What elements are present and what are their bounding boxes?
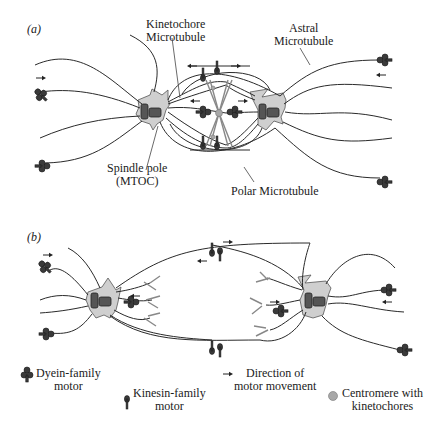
legend-dynein-label: Dyein-family motor — [36, 367, 101, 393]
right-spindle-pole-b — [298, 275, 331, 318]
direction-arrow-icon — [223, 372, 233, 376]
spindle-pole-label: Spindle pole (MTOC) — [107, 162, 167, 188]
direction-arrow-icon — [231, 64, 241, 68]
kinesin-motor-icon — [217, 248, 222, 261]
panel-b-label: (b) — [27, 230, 41, 245]
legend-direction-label: Direction of motor movement — [234, 367, 316, 393]
direction-arrow-icon — [43, 253, 53, 257]
panel-b-diagram — [36, 240, 412, 357]
dynein-motor-icon — [273, 305, 288, 317]
dynein-motor-icon — [32, 86, 51, 105]
direction-arrow-icon — [187, 64, 197, 68]
direction-arrow-icon — [197, 259, 207, 263]
astral-microtubule-label: Astral Microtubule — [274, 22, 333, 48]
direction-arrow-icon — [223, 240, 233, 244]
dynein-motor-icon — [35, 160, 50, 172]
kinesin-motor-icon — [214, 61, 219, 74]
dynein-motor-icon — [36, 258, 55, 277]
direction-arrow-icon — [382, 300, 392, 304]
dynein-motor-icon — [377, 54, 392, 66]
polar-microtubule-label: Polar Microtubule — [231, 185, 319, 198]
legend-kinesin-label: Kinesin-family motor — [133, 387, 206, 413]
direction-arrow-icon — [36, 76, 46, 80]
dynein-motor-icon — [381, 284, 396, 296]
direction-arrow-icon — [238, 99, 248, 103]
dynein-motor-icon — [397, 344, 412, 356]
chromatids-right — [250, 272, 270, 336]
direction-arrow-icon — [270, 300, 280, 304]
kinesin-motor-icon — [124, 396, 129, 409]
dynein-motor-icon — [196, 106, 211, 118]
panel-a-diagram — [32, 35, 392, 188]
mitotic-spindle-diagram — [0, 0, 432, 428]
kinetochore-microtubule-label: Kinetochore Microtubule — [146, 18, 205, 44]
dynein-motor-icon — [39, 328, 54, 340]
dynein-motor-icon — [124, 296, 139, 308]
legend-centromere-label: Centromere with kinetochores — [342, 387, 423, 413]
panel-a-label: (a) — [27, 22, 41, 37]
direction-arrow-icon — [376, 73, 386, 77]
kinesin-motor-icon — [209, 341, 214, 354]
direction-arrow-icon — [190, 99, 200, 103]
dynein-motor-icon — [21, 367, 33, 382]
centromere-icon — [329, 392, 338, 401]
dynein-motor-icon — [227, 106, 242, 118]
kinesin-motor-icon — [217, 344, 222, 357]
